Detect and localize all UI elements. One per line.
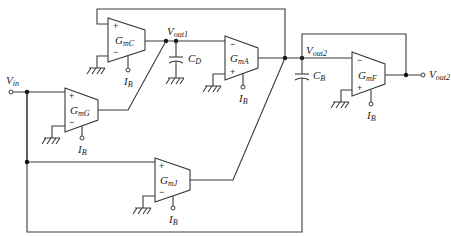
ground-icon (133, 208, 151, 214)
ground-icon (331, 102, 349, 108)
gma-bias-terminal (241, 85, 245, 89)
gmg-label: GmG (70, 105, 90, 118)
gmf-label: GmF (358, 70, 377, 83)
gmg-minus-wire (52, 126, 65, 138)
gma-bias-label: IB (239, 93, 248, 106)
gmc-label: GmC (115, 35, 134, 48)
gmc-minus-wire (97, 56, 108, 68)
vout2-node-label: Vout2 (306, 45, 327, 58)
vin-terminal (9, 90, 13, 94)
gmf-plus-sign: + (357, 84, 362, 93)
gmf-plus-wire (341, 90, 352, 102)
gmg-minus-sign: − (69, 118, 74, 127)
gmg-bias-label: IB (78, 144, 87, 157)
ground-icon (87, 68, 105, 74)
gmj-bias-terminal (171, 206, 175, 210)
gmj-minus-wire (143, 196, 155, 208)
gmj-minus-sign: − (159, 188, 164, 197)
gmj-bias-label: IB (169, 214, 178, 227)
gmj-label: GmJ (160, 175, 177, 188)
vout2-terminal (421, 73, 425, 77)
junction-dot (404, 73, 408, 77)
schematic-wires (0, 0, 451, 236)
vout1-label: Vout1 (167, 26, 188, 39)
ground-icon (166, 78, 184, 84)
circuit-diagram: + − GmC IB Vout1 CD − + GmA IB Vout2 CB … (0, 0, 451, 236)
vin-label: Vin (6, 75, 19, 88)
cd-label: CD (188, 53, 201, 66)
gmc-bias-label: IB (124, 76, 133, 89)
gma-label: GmA (230, 53, 249, 66)
gmf-bias-terminal (369, 102, 373, 106)
gma-plus-wire (213, 74, 225, 86)
gmg-bias-terminal (80, 136, 84, 140)
gmf-bias-label: IB (367, 110, 376, 123)
cb-label: CB (313, 70, 325, 83)
vout2-terminal-label: Vout2 (429, 69, 450, 82)
gmg-plus-sign: + (69, 92, 74, 101)
ground-icon (203, 86, 221, 92)
gmc-plus-sign: + (113, 22, 118, 31)
gma-plus-sign: + (230, 68, 235, 77)
gmf-minus-sign: − (357, 56, 362, 65)
junction-dot (25, 160, 29, 164)
ground-icon (42, 138, 60, 144)
gmc-bias-terminal (126, 68, 130, 72)
gma-minus-sign: − (230, 40, 235, 49)
gmc-minus-sign: − (113, 48, 118, 57)
gmj-plus-sign: + (159, 162, 164, 171)
gmj-output-wire (190, 58, 285, 180)
